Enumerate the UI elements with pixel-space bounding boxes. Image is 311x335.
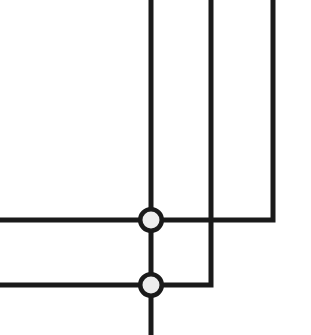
junction-node-lower: [140, 274, 162, 296]
junction-node-upper: [140, 209, 162, 231]
schematic-diagram: [0, 0, 311, 335]
diagram-canvas: [0, 0, 311, 335]
